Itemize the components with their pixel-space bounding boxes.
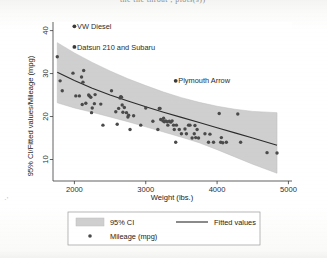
scatter-point <box>58 79 61 82</box>
scatter-point <box>132 114 135 117</box>
scatter-point <box>84 102 87 105</box>
scatter-point <box>120 96 123 99</box>
annotation-marker <box>73 24 77 28</box>
annotation-marker <box>73 45 77 49</box>
scatter-point <box>90 111 93 114</box>
y-tick-label: 30 <box>41 69 50 77</box>
scatter-point <box>91 106 94 109</box>
scatter-point <box>80 75 83 78</box>
scatter-point <box>166 123 169 126</box>
scatter-point <box>183 127 186 130</box>
scatter-point <box>195 128 198 131</box>
scatter-point <box>93 93 96 96</box>
scatter-point <box>185 132 188 135</box>
scatter-point <box>194 136 197 139</box>
scatter-point <box>193 132 196 135</box>
scatter-point <box>236 112 239 115</box>
annotation-marker <box>174 79 178 83</box>
legend-box <box>68 212 260 245</box>
y-axis-ticks: 10203040 <box>41 26 54 163</box>
scatter-point <box>93 102 96 105</box>
scatter-point <box>156 128 159 131</box>
scatter-point <box>180 132 183 135</box>
scatter-point <box>144 106 147 109</box>
plot-area: 200030004000500010203040VW DieselDatsun … <box>41 22 297 194</box>
scatter-point <box>190 136 193 139</box>
y-axis-title: 95% CI/Fitted values/Mileage (mpg) <box>26 55 35 176</box>
scatter-point <box>121 111 124 114</box>
scatter-point <box>174 141 177 144</box>
scatter-point <box>81 103 84 106</box>
y-tick-label: 20 <box>41 112 50 120</box>
scatter-point <box>208 132 211 135</box>
scatter-point <box>74 94 77 97</box>
scatter-point <box>188 123 191 126</box>
legend-label-fitted: Fitted values <box>214 218 256 227</box>
scatter-point <box>110 89 113 92</box>
scatter-point <box>212 141 215 144</box>
scatter-point <box>139 123 142 126</box>
scatter-point <box>71 71 74 74</box>
scatter-point <box>265 151 268 154</box>
scatter-point <box>220 136 223 139</box>
scatter-point <box>61 89 64 92</box>
scatter-point <box>82 69 85 72</box>
scatter-point <box>56 55 59 58</box>
scatter-point <box>178 128 181 131</box>
x-tick-label: 5000 <box>280 185 297 194</box>
scatter-point <box>127 114 130 117</box>
mileage-vs-weight-scatter-plot: 95% CI/Fitted values/Mileage (mpg) Weigh… <box>0 8 327 254</box>
scatter-point <box>239 141 242 144</box>
scatter-point <box>175 123 178 126</box>
scatter-point <box>117 107 120 110</box>
scatter-point <box>101 123 104 126</box>
y-tick-label: 10 <box>41 155 50 163</box>
x-tick-label: 3000 <box>137 185 154 194</box>
scatter-point <box>197 136 200 139</box>
annotation-label: Plymouth Arrow <box>178 76 230 85</box>
x-axis-title: Weight (lbs.) <box>151 193 194 202</box>
scatter-point <box>221 141 224 144</box>
cut-off-header-text: the the throat ; plots(s)) <box>120 0 320 7</box>
scatter-point <box>170 119 173 122</box>
scatter-point <box>218 112 221 115</box>
legend-swatch-ci <box>76 218 104 226</box>
scatter-point <box>123 106 126 109</box>
scatter-point <box>89 96 92 99</box>
scatter-point <box>114 110 117 113</box>
legend-label-ci: 95% CI <box>110 218 134 227</box>
scatter-point <box>207 141 210 144</box>
scatter-point <box>151 120 154 123</box>
scatter-point <box>81 80 84 83</box>
scatter-point <box>173 128 176 131</box>
scatter-point <box>116 123 119 126</box>
scatter-point <box>99 102 102 105</box>
scatter-point <box>225 141 228 144</box>
scatter-point <box>158 107 161 110</box>
legend-label-mileage: Mileage (mpg) <box>110 232 157 241</box>
x-tick-label: 2000 <box>66 185 83 194</box>
scatter-point <box>203 132 206 135</box>
chart-figure: 95% CI/Fitted values/Mileage (mpg) Weigh… <box>0 8 327 254</box>
y-tick-label: 40 <box>41 26 50 34</box>
x-tick-label: 4000 <box>209 185 226 194</box>
scatter-point <box>78 94 81 97</box>
chart-legend: 95% CIFitted valuesMileage (mpg) <box>68 212 260 245</box>
scatter-point <box>275 151 278 154</box>
scatter-point <box>128 128 131 131</box>
cut-off-header-text-line: the the throat ; plots(s)) <box>120 0 320 4</box>
annotation-label: Datsun 210 and Subaru <box>77 43 155 52</box>
annotation-label: VW Diesel <box>77 22 112 31</box>
legend-swatch-mileage <box>88 234 92 238</box>
scatter-point <box>193 124 196 127</box>
